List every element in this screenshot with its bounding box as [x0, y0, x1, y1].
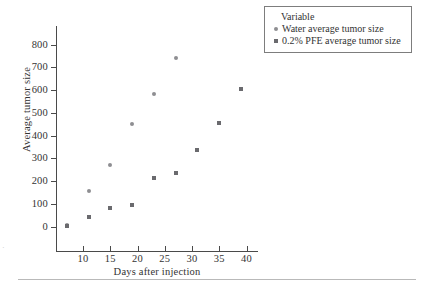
legend-square-marker-icon — [270, 39, 281, 43]
x-tick-label: 10 — [68, 253, 98, 264]
legend-title: Variable — [270, 11, 406, 23]
x-axis-title: Days after injection — [56, 266, 258, 277]
x-tick — [110, 246, 111, 251]
data-point — [130, 203, 134, 207]
legend-entry-label: 0.2% PFE average tumor size — [281, 35, 401, 47]
y-tick — [51, 136, 56, 137]
y-tick — [51, 181, 56, 182]
data-point — [87, 189, 91, 193]
x-tick — [247, 246, 248, 251]
data-point — [130, 122, 134, 126]
legend: Variable Water average tumor size0.2% PF… — [264, 6, 412, 53]
y-tick-label: 0 — [0, 222, 48, 232]
x-tick-label: 20 — [123, 253, 153, 264]
data-point — [174, 56, 178, 60]
x-tick-label: 30 — [177, 253, 207, 264]
x-tick-label: 40 — [232, 253, 262, 264]
data-point — [174, 171, 178, 175]
x-tick-label: 15 — [95, 253, 125, 264]
legend-entry[interactable]: 0.2% PFE average tumor size — [270, 35, 406, 47]
data-point — [65, 224, 69, 228]
y-axis-title: Average tumor size — [21, 40, 32, 180]
y-tick — [51, 204, 56, 205]
x-tick — [192, 246, 193, 251]
y-tick — [51, 113, 56, 114]
x-tick — [165, 246, 166, 251]
corner-mark: · — [2, 243, 5, 252]
data-point — [108, 206, 112, 210]
y-tick-label: 100 — [0, 199, 48, 209]
data-point — [108, 163, 112, 167]
legend-entries: Water average tumor size0.2% PFE average… — [270, 23, 406, 47]
x-tick — [138, 246, 139, 251]
footer-divider — [18, 279, 416, 280]
x-tick — [219, 246, 220, 251]
data-point — [152, 176, 156, 180]
y-tick — [51, 90, 56, 91]
legend-circle-marker-icon — [270, 27, 281, 31]
data-point — [217, 121, 221, 125]
y-tick — [51, 158, 56, 159]
y-tick — [51, 45, 56, 46]
data-point — [87, 215, 91, 219]
x-tick — [83, 246, 84, 251]
scatter-plot-figure: 0100200300400500600700800 10152025303540… — [0, 0, 421, 286]
y-tick — [51, 67, 56, 68]
data-point — [239, 87, 243, 91]
data-point — [195, 148, 199, 152]
data-point — [152, 92, 156, 96]
legend-entry-label: Water average tumor size — [281, 23, 384, 35]
x-tick-label: 35 — [204, 253, 234, 264]
y-axis-line — [56, 26, 57, 252]
legend-entry[interactable]: Water average tumor size — [270, 23, 406, 35]
x-tick-label: 25 — [150, 253, 180, 264]
y-tick — [51, 227, 56, 228]
